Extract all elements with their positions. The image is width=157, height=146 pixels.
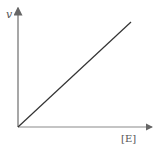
data-line [18,22,131,127]
y-axis-label: v [6,8,13,21]
chart: v [E] [0,0,157,146]
x-axis-label: [E] [121,133,136,144]
